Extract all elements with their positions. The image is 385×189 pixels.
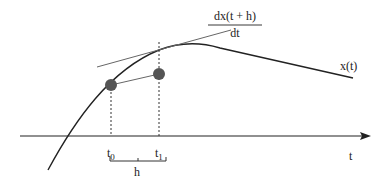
euler-diagram: dx(t + h) dt x(t) t t0 t1 h xyxy=(0,0,385,189)
derivative-denominator: dt xyxy=(230,26,240,40)
step-label: h xyxy=(134,165,140,179)
t0-label: t0 xyxy=(107,146,115,162)
curve-x-of-t xyxy=(48,44,353,170)
tangent-line xyxy=(97,30,231,67)
t1-label: t1 xyxy=(155,146,163,162)
axis-label: t xyxy=(349,149,353,163)
point-t1-estimate xyxy=(153,68,165,80)
curve-label: x(t) xyxy=(340,59,357,73)
derivative-numerator: dx(t + h) xyxy=(214,9,256,23)
point-t0 xyxy=(105,79,117,91)
